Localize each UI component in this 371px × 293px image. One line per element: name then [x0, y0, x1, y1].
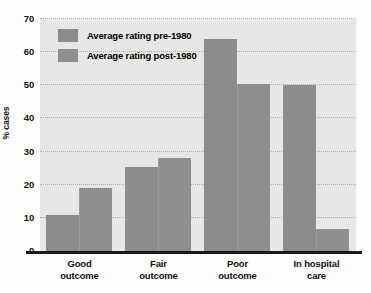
category-label-good-outcome: Goodoutcome [40, 258, 119, 281]
bar-good-outcome-series-2 [79, 188, 112, 251]
category-label-fair-outcome: Fairoutcome [119, 258, 198, 281]
bar-fair-outcome-series-2 [158, 158, 191, 251]
legend-swatch-icon-2 [58, 49, 78, 62]
bar-poor-outcome-series-1 [204, 39, 237, 251]
y-tick-label-0: 0 [8, 246, 34, 256]
bar-in-hospital-care-series-1 [283, 85, 316, 251]
legend-item-2: Average rating post-1980 [58, 49, 197, 62]
bar-poor-outcome-series-2 [237, 84, 270, 251]
bar-in-hospital-care-series-2 [316, 229, 349, 251]
x-axis-line [26, 251, 362, 254]
legend-swatch-icon-1 [58, 29, 78, 42]
y-axis-label: % cases [1, 107, 11, 140]
bar-group-poor-outcome [204, 19, 271, 251]
y-tick-label-70: 70 [8, 14, 34, 24]
y-tick-label-10: 10 [8, 213, 34, 223]
y-tick-label-60: 60 [8, 47, 34, 57]
y-tick-label-50: 50 [8, 80, 34, 90]
category-label-poor-outcome: Pooroutcome [198, 258, 277, 281]
legend: Average rating pre-1980Average rating po… [58, 29, 197, 69]
bar-good-outcome-series-1 [46, 215, 79, 251]
category-label-in-hospital-care: In hospitalcare [277, 258, 356, 281]
legend-item-1: Average rating pre-1980 [58, 29, 197, 42]
y-tick-label-20: 20 [8, 180, 34, 190]
bar-fair-outcome-series-1 [125, 167, 158, 252]
y-tick-label-40: 40 [8, 113, 34, 123]
bar-group-in-hospital-care [283, 19, 350, 251]
legend-label-1: Average rating pre-1980 [87, 30, 191, 41]
bar-chart: 010203040506070 % cases Average rating p… [0, 0, 371, 293]
legend-label-2: Average rating post-1980 [87, 50, 197, 61]
y-tick-label-30: 30 [8, 147, 34, 157]
